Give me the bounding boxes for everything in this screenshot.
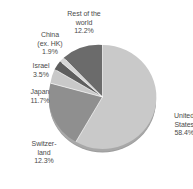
pie-label-united-states: United States 58.4% (150, 112, 193, 138)
pie-label-israel: Israel 3.5% (20, 62, 62, 79)
pie-label-japan: Japan 11.7% (18, 88, 62, 105)
pie-label-switzerland: Switzer- land 12.3% (16, 140, 72, 166)
pie-label-china: China (ex. HK) 1.9% (26, 31, 74, 57)
pie-chart-figure: Rest of the world 12.2% China (ex. HK) 1… (0, 0, 193, 189)
